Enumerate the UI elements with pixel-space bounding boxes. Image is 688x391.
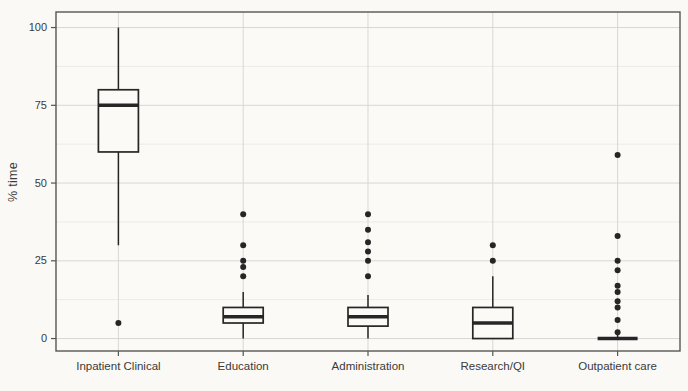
outlier-dot (240, 273, 246, 279)
boxplot-chart: 0255075100Inpatient ClinicalEducationAdm… (0, 0, 688, 391)
outlier-dot (490, 258, 496, 264)
outlier-dot (365, 239, 371, 245)
x-tick-label: Inpatient Clinical (76, 360, 160, 372)
outlier-dot (490, 242, 496, 248)
x-tick-label: Outpatient care (578, 360, 657, 372)
outlier-dot (615, 298, 621, 304)
outlier-dot (365, 258, 371, 264)
outlier-dot (615, 329, 621, 335)
outlier-dot (615, 304, 621, 310)
outlier-dot (365, 227, 371, 233)
x-tick-label: Education (218, 360, 269, 372)
outlier-dot (615, 317, 621, 323)
outlier-dot (240, 242, 246, 248)
y-tick-label: 0 (41, 332, 47, 344)
outlier-dot (240, 264, 246, 270)
boxplot-figure: % time 0255075100Inpatient ClinicalEduca… (0, 0, 688, 391)
y-tick-label: 100 (29, 21, 47, 33)
outlier-dot (615, 258, 621, 264)
x-tick-label: Research/QI (461, 360, 526, 372)
outlier-dot (615, 267, 621, 273)
outlier-dot (240, 211, 246, 217)
outlier-dot (115, 320, 121, 326)
x-tick-label: Administration (332, 360, 405, 372)
outlier-dot (365, 211, 371, 217)
outlier-dot (365, 248, 371, 254)
outlier-dot (615, 289, 621, 295)
y-tick-label: 75 (35, 99, 47, 111)
outlier-dot (615, 152, 621, 158)
y-tick-label: 50 (35, 177, 47, 189)
y-tick-label: 25 (35, 254, 47, 266)
outlier-dot (365, 273, 371, 279)
outlier-dot (615, 283, 621, 289)
outlier-dot (240, 258, 246, 264)
box (98, 90, 138, 152)
outlier-dot (615, 233, 621, 239)
